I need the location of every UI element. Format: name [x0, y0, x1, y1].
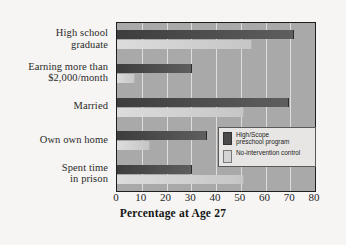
bar-row — [117, 108, 315, 117]
x-tick-label-0: 0 — [113, 191, 119, 203]
y-axis-label-line: in prison — [62, 173, 108, 185]
x-axis-ticks: 01020304050607080 — [116, 191, 314, 205]
y-axis-label: Married — [73, 100, 108, 112]
bar-control — [117, 175, 244, 184]
y-axis-label-line: $2,000/month — [28, 72, 108, 84]
bar-control — [117, 141, 150, 150]
bar-control — [117, 108, 244, 117]
legend-label-program: High/Scope preschool program — [236, 131, 289, 146]
legend-item-program: High/Scope preschool program — [223, 131, 311, 146]
bar-row — [117, 98, 315, 107]
bar-program — [117, 165, 192, 174]
legend-label-control: No-intervention control — [236, 149, 300, 156]
legend-item-control: No-intervention control — [223, 149, 311, 163]
chart-figure: High schoolgraduateEarning more than$2,0… — [0, 0, 346, 245]
y-axis-label-line: Own own home — [40, 134, 108, 146]
bar-control — [117, 74, 135, 83]
bar-control — [117, 40, 252, 49]
legend-swatch-control-icon — [223, 150, 232, 163]
bar-row — [117, 40, 315, 49]
legend-swatch-program-icon — [223, 132, 232, 145]
y-axis-label: High schoolgraduate — [56, 27, 108, 50]
x-tick-label-40: 40 — [210, 191, 221, 203]
y-axis-label-line: Spent time — [62, 162, 108, 174]
x-tick-label-60: 60 — [259, 191, 270, 203]
bar-program — [117, 30, 294, 39]
bar-row — [117, 175, 315, 184]
x-tick-label-20: 20 — [160, 191, 171, 203]
x-tick-label-50: 50 — [234, 191, 245, 203]
bar-program — [117, 64, 192, 73]
y-axis-label: Spent timein prison — [62, 162, 108, 185]
bar-row — [117, 74, 315, 83]
x-tick-label-30: 30 — [185, 191, 196, 203]
x-tick-label-70: 70 — [284, 191, 295, 203]
x-tick-label-10: 10 — [135, 191, 146, 203]
y-axis-label-line: Earning more than — [28, 61, 108, 73]
y-axis-label: Earning more than$2,000/month — [28, 61, 108, 84]
x-tick-label-80: 80 — [309, 191, 320, 203]
chart-legend: High/Scope preschool program No-interven… — [218, 127, 316, 167]
bar-program — [117, 131, 207, 140]
x-axis-title: Percentage at Age 27 — [0, 207, 346, 219]
y-axis-label-line: Married — [73, 100, 108, 112]
bar-row — [117, 64, 315, 73]
bar-row — [117, 30, 315, 39]
bar-program — [117, 98, 289, 107]
y-axis-label-line: graduate — [56, 39, 108, 51]
y-axis-label: Own own home — [40, 134, 108, 146]
y-axis-labels: High schoolgraduateEarning more than$2,0… — [4, 22, 112, 190]
y-axis-label-line: High school — [56, 27, 108, 39]
